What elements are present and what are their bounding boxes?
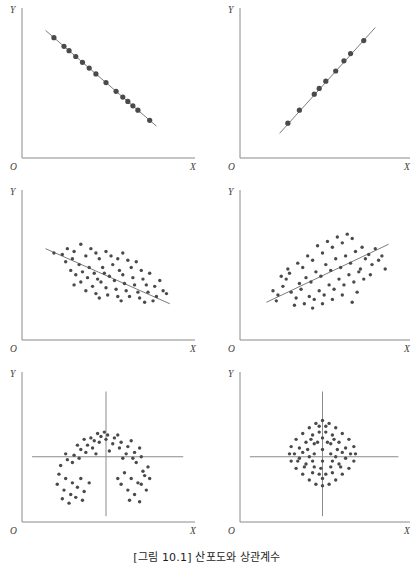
- data-point: [341, 58, 346, 63]
- panel-top-left-plot: Y O X: [0, 0, 207, 180]
- data-point: [336, 235, 339, 238]
- data-point: [81, 270, 84, 273]
- data-point: [165, 292, 168, 295]
- data-point: [288, 452, 291, 455]
- data-point: [326, 441, 329, 444]
- data-point: [61, 497, 64, 500]
- origin-label: O: [228, 526, 235, 536]
- data-point: [360, 246, 363, 249]
- data-point: [133, 283, 136, 286]
- data-point: [308, 455, 311, 458]
- data-point: [384, 267, 387, 270]
- data-point: [316, 441, 319, 444]
- data-point: [308, 426, 311, 429]
- data-point: [352, 459, 355, 462]
- data-point: [135, 461, 138, 464]
- data-point: [346, 232, 349, 235]
- data-point: [94, 292, 97, 295]
- data-point: [133, 493, 136, 496]
- data-point: [301, 266, 304, 269]
- data-point: [289, 290, 292, 293]
- data-point: [285, 121, 290, 126]
- data-point: [125, 99, 130, 104]
- data-point: [158, 279, 161, 282]
- data-point: [71, 481, 74, 484]
- data-point: [114, 288, 117, 291]
- data-point: [314, 270, 317, 273]
- data-point: [333, 68, 338, 73]
- data-point: [324, 425, 327, 428]
- data-point: [294, 467, 297, 470]
- data-point: [143, 474, 146, 477]
- data-point: [64, 452, 67, 455]
- figure-caption: [그림 10.1] 산포도와 상관계수: [0, 548, 414, 564]
- panel-bottom-left: Y O X: [0, 364, 207, 544]
- data-point: [337, 441, 340, 444]
- data-point: [113, 89, 118, 94]
- data-point: [304, 441, 307, 444]
- data-point: [321, 302, 324, 305]
- data-point: [308, 478, 311, 481]
- data-point: [84, 451, 87, 454]
- data-point: [111, 442, 114, 445]
- data-point: [313, 298, 316, 301]
- data-point: [86, 443, 89, 446]
- data-point: [362, 277, 365, 280]
- axes-bottom-left: [22, 372, 195, 522]
- data-point: [141, 470, 144, 473]
- data-point: [123, 282, 126, 285]
- data-point: [311, 471, 314, 474]
- plot-area-bottom-left: [32, 392, 183, 517]
- data-point: [153, 285, 156, 288]
- panel-middle-right: Y O X: [207, 182, 414, 362]
- data-point: [131, 276, 134, 279]
- data-point: [332, 438, 335, 441]
- data-point: [306, 448, 309, 451]
- data-point: [141, 277, 144, 280]
- data-point: [331, 246, 334, 249]
- data-point: [69, 493, 72, 496]
- data-point: [52, 251, 55, 254]
- data-point: [62, 488, 65, 491]
- data-point: [104, 286, 107, 289]
- data-point: [79, 243, 82, 246]
- x-axis-label: X: [189, 344, 197, 354]
- data-point: [332, 288, 335, 291]
- data-point: [96, 277, 99, 280]
- data-point: [77, 457, 80, 460]
- data-point: [103, 80, 108, 85]
- data-point: [51, 35, 56, 40]
- data-point: [121, 251, 124, 254]
- data-point: [311, 306, 314, 309]
- data-point: [301, 451, 304, 454]
- data-point: [349, 452, 352, 455]
- data-point: [119, 483, 122, 486]
- x-axis-label: X: [403, 344, 411, 354]
- data-point: [337, 277, 340, 280]
- data-point: [323, 79, 328, 84]
- data-point: [321, 436, 324, 439]
- data-point: [319, 467, 322, 470]
- data-point: [136, 481, 139, 484]
- data-point: [334, 257, 337, 260]
- panel-top-right: Y O X: [207, 0, 414, 180]
- data-point: [130, 439, 133, 442]
- data-point: [80, 60, 85, 65]
- data-point: [374, 247, 377, 250]
- data-point: [347, 467, 350, 470]
- data-point: [327, 422, 330, 425]
- data-point: [91, 285, 94, 288]
- data-point: [89, 436, 92, 439]
- data-point: [321, 448, 324, 451]
- data-point: [79, 280, 82, 283]
- data-point: [93, 272, 96, 275]
- data-point: [77, 263, 80, 266]
- data-point: [329, 442, 332, 445]
- data-point: [87, 66, 92, 71]
- data-point: [161, 289, 164, 292]
- data-point: [143, 301, 146, 304]
- data-point: [138, 500, 141, 503]
- data-point: [79, 477, 82, 480]
- y-axis-label: Y: [228, 369, 235, 379]
- data-point: [304, 462, 307, 465]
